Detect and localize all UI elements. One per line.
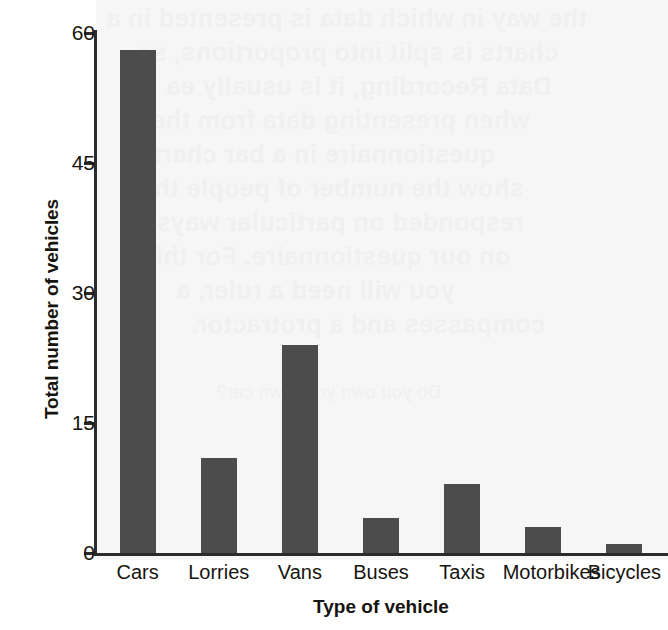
plot-area	[0, 0, 668, 553]
bar	[282, 345, 318, 553]
x-tick-label: Bicycles	[584, 562, 665, 582]
x-tick-label: Buses	[340, 562, 421, 582]
x-tick-label: Lorries	[178, 562, 259, 582]
x-tick-label: Cars	[97, 562, 178, 582]
bar	[525, 527, 561, 553]
bar	[606, 544, 642, 553]
bar	[444, 484, 480, 553]
x-tick-label: Motorbikes	[503, 562, 584, 582]
x-tick-label: Taxis	[422, 562, 503, 582]
bar	[120, 50, 156, 553]
x-axis-title: Type of vehicle	[94, 596, 668, 618]
x-axis-line	[94, 553, 668, 556]
bar-chart-figure: the way in which data is presented in a …	[0, 0, 668, 630]
bar	[363, 518, 399, 553]
x-tick-label: Vans	[259, 562, 340, 582]
bar	[201, 458, 237, 553]
